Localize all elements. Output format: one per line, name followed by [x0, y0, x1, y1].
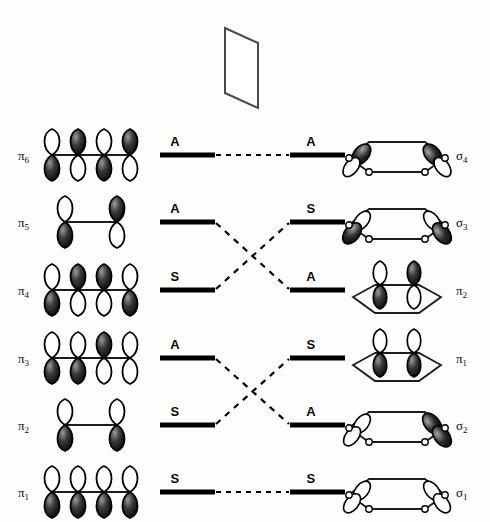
right-term-label-0: σ4: [456, 148, 468, 164]
structure-sigma1: [340, 478, 454, 516]
right-symmetry-label-1: S: [300, 201, 322, 216]
diagram-graphics: [0, 0, 490, 522]
right-term-label-2: π2: [456, 283, 467, 299]
left-term-label-4: π2: [18, 418, 29, 434]
left-symmetry-label-1: A: [164, 201, 186, 216]
structure-pi2-ring: [353, 261, 441, 313]
structure-pi4: [45, 264, 138, 316]
left-symmetry-label-0: A: [164, 134, 186, 149]
structure-sigma2: [340, 410, 455, 451]
structure-pi5: [58, 196, 125, 248]
orbital-correlation-diagram: π6 π5 π4 π3 π2 π1 A A S A S S A S A S A …: [0, 0, 490, 522]
structure-sigma4: [339, 140, 455, 180]
left-term-label-3: π3: [18, 351, 29, 367]
left-symmetry-label-4: S: [164, 404, 186, 419]
structure-pi1-ring: [353, 329, 441, 381]
mirror-plane-icon: [225, 28, 258, 108]
right-term-label-1: σ3: [456, 215, 468, 231]
left-symmetry-label-3: A: [164, 337, 186, 352]
left-term-label-1: π5: [18, 215, 29, 231]
right-term-label-3: π1: [456, 351, 467, 367]
right-term-label-4: σ2: [456, 418, 468, 434]
structure-sigma3: [339, 207, 455, 247]
left-term-label-2: π4: [18, 283, 29, 299]
structure-pi1: [45, 466, 138, 518]
structure-pi2: [58, 399, 125, 451]
right-symmetry-label-5: S: [300, 471, 322, 486]
left-symmetry-label-2: S: [164, 269, 186, 284]
left-term-label-5: π1: [18, 485, 29, 501]
structure-pi3: [45, 332, 138, 384]
right-symmetry-label-4: A: [300, 404, 322, 419]
right-symmetry-label-3: S: [300, 337, 322, 352]
right-term-label-5: σ1: [456, 485, 468, 501]
left-symmetry-label-5: S: [164, 471, 186, 486]
left-term-label-0: π6: [18, 148, 29, 164]
structure-pi6: [45, 129, 138, 181]
right-symmetry-label-2: A: [300, 269, 322, 284]
right-symmetry-label-0: A: [300, 134, 322, 149]
